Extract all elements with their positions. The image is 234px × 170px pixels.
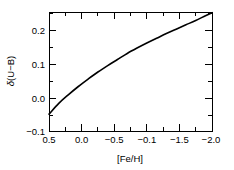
x-tick-label: 0.0 (75, 134, 88, 145)
y-tick-label: 0.1 (32, 59, 45, 70)
x-axis-minor-ticks-top (65, 12, 195, 16)
data-series-line (49, 13, 212, 114)
chart-figure: 0.5 0.0 −0.5 −0.1 −1.5 −2.0 0.2 0.1 0.0 … (0, 0, 234, 170)
chart-plot-area: 0.5 0.0 −0.5 −0.1 −1.5 −2.0 0.2 0.1 0.0 … (0, 0, 234, 170)
x-axis-title: [Fe/H] (117, 153, 143, 164)
y-axis-title-rest: (U−B) (5, 56, 16, 81)
x-axis-minor-ticks-bottom (65, 127, 195, 131)
x-tick-label: −0.1 (137, 134, 156, 145)
y-tick-label: 0.2 (32, 25, 45, 36)
y-axis-title: δ(U−B) (5, 56, 16, 86)
x-tick-label: −0.5 (105, 134, 124, 145)
y-axis-tick-labels: 0.2 0.1 0.0 −0.1 (26, 25, 45, 137)
y-tick-label: 0.0 (32, 93, 45, 104)
y-tick-label: −0.1 (26, 126, 45, 137)
x-tick-label: −2.0 (202, 134, 221, 145)
x-tick-label: −1.5 (170, 134, 189, 145)
plot-frame (49, 12, 212, 131)
svg-text:δ(U−B): δ(U−B) (5, 56, 16, 86)
x-axis-tick-labels: 0.5 0.0 −0.5 −0.1 −1.5 −2.0 (42, 134, 220, 145)
